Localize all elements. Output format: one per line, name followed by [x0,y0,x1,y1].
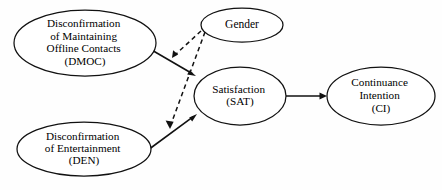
edge-den-to-satisfaction [148,114,197,150]
node-disconfirmation-of-entertainment[interactable]: Disconfirmation of Entertainment (DEN) [17,122,151,176]
arrowhead-den-to-satisfaction [189,114,197,122]
arrowhead-gender-moderates-den [166,121,174,130]
nodes-layer: Disconfirmation of Maintaining Offline C… [14,8,435,176]
node-satisfaction[interactable]: Satisfaction (SAT) [194,67,286,125]
node-continuance-intention[interactable]: Continuance Intention (CI) [327,67,435,125]
model-canvas: Disconfirmation of Maintaining Offline C… [0,0,442,190]
edge-gender-moderates-den-to-satisfaction [166,32,205,129]
node-disconfirmation-of-maintaining-offline-contacts[interactable]: Disconfirmation of Maintaining Offline C… [14,10,156,76]
edge-satisfaction-to-continuance-intention [286,93,327,100]
node-gender[interactable]: Gender [201,8,283,42]
node-label-gender: Gender [225,18,259,30]
arrowhead-satisfaction-to-continuance-intention [320,93,328,100]
arrowhead-gender-moderates-dmoc [172,50,178,58]
edge-gender-moderates-dmoc-to-satisfaction [172,31,201,58]
path-model-diagram: Disconfirmation of Maintaining Offline C… [0,0,442,190]
